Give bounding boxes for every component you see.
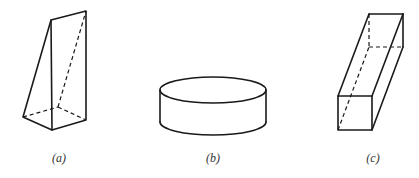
wedge-hidden-base-right <box>58 107 86 120</box>
figure-c-label: (c) <box>366 151 379 165</box>
figure-a-wedge: (a) <box>23 11 86 165</box>
prism-long-edge-top-left <box>338 14 369 96</box>
wedge-outline <box>23 11 86 130</box>
wedge-front-edge <box>51 20 52 130</box>
wedge-hidden-diagonal <box>58 11 86 107</box>
wedge-hidden-base-left <box>23 107 58 117</box>
prism-long-edge-top-right <box>372 14 403 96</box>
figure-b-cylinder: (b) <box>160 77 266 165</box>
figure-c-prism: (c) <box>338 14 403 165</box>
figure-a-label: (a) <box>52 151 66 165</box>
prism-long-edge-bottom-right <box>372 47 403 130</box>
cylinder-bottom-arc <box>160 122 266 135</box>
prism-front-face <box>338 96 372 130</box>
figure-b-label: (b) <box>206 151 220 165</box>
solids-diagram: (a) (b) (c) <box>0 0 419 178</box>
cylinder-top <box>160 77 266 103</box>
prism-hidden-long-edge <box>338 47 369 130</box>
